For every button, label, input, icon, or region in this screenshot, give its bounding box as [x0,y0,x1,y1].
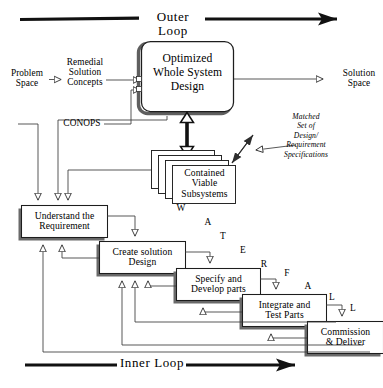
integrate-and-test-parts-label: Integrate and Test Parts [244,300,325,321]
problem-space-label: Problem Space [4,68,50,88]
waterfall-letter-7: L [326,292,338,302]
waterfall-letter-2: T [217,231,229,241]
waterfall-letter-8: L [347,303,359,313]
feedback-into-integrate [271,334,307,338]
waterfall-letter-5: F [281,268,293,278]
waterfall-systems-engineering-diagram: Outer Loop Inner Loop Problem Space Reme… [0,0,383,388]
bidirectional-realization-arrow [181,113,194,157]
feedback-into-specify [203,308,242,312]
outer-loop-label: Outer Loop [141,10,205,38]
waterfall-letter-0: W [175,203,187,213]
remedial-solution-concepts-label: Remedial Solution Concepts [63,57,107,87]
contained-viable-subsystems-label: Contained Viable Subsystems [174,168,235,199]
specify-and-develop-parts-label: Specify and Develop parts [178,274,259,295]
waterfall-letter-3: E [237,245,249,255]
conops-label: CONOPS [58,118,106,128]
matched-set-annotation: Matched Set of Design/ Requirement Speci… [273,112,339,159]
create-solution-design-label: Create solution Design [101,247,184,268]
inner-loop-label: Inner Loop [119,356,185,370]
optimized-whole-system-design-label: Optimized Whole System Design [143,52,232,94]
waterfall-letter-6: A [302,281,314,291]
understand-the-requirement-label: Understand the Requirement [23,211,106,232]
commission-and-deliver-label: Commission & Deliver [309,327,382,348]
waterfall-letter-1: A [202,217,214,227]
connector-conops-to-optimized [104,90,140,124]
solution-space-label: Solution Space [337,68,381,88]
waterfall-letter-4: R [258,259,270,269]
matched-set-double-arrow [232,135,253,163]
